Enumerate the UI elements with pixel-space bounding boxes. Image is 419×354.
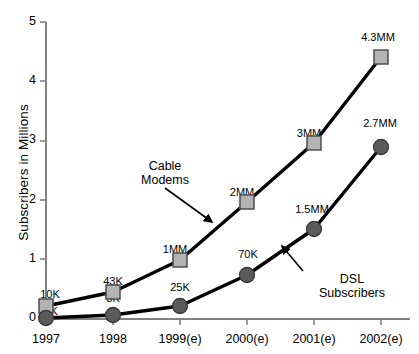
marker-dsl-2000 [240,268,255,283]
marker-dsl-1999 [173,299,188,314]
marker-dsl-1997 [39,311,54,326]
marker-cable-2002 [374,50,388,64]
series-line-cable-modems [46,57,381,306]
marker-cable-1998 [106,285,120,299]
marker-cable-1999 [173,253,187,267]
marker-cable-2000 [240,195,254,209]
series-markers-cable-modems [39,50,388,313]
chart-container: Subscribers in Millions 5 4 3 2 1 0 1997… [0,0,419,354]
marker-cable-2001 [307,136,321,150]
annotation-arrow-dsl-subscribers [282,246,303,271]
marker-dsl-1998 [106,308,121,323]
annotation-arrow-cable-modems [165,188,212,222]
chart-plot-svg [0,0,419,354]
marker-dsl-2001 [307,222,322,237]
marker-dsl-2002 [374,140,389,155]
